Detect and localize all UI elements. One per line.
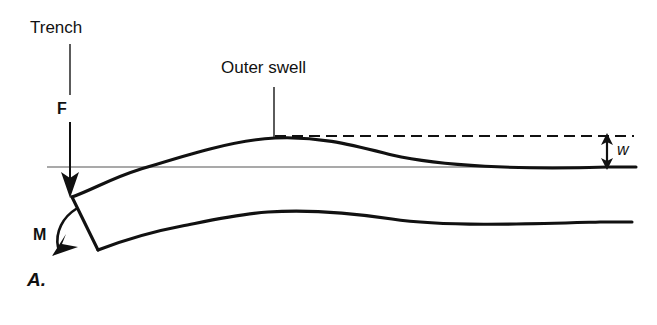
figure-panel-a: Trench Outer swell F M w A. xyxy=(0,0,657,325)
moment-arrowhead xyxy=(52,234,78,256)
force-symbol-label: F xyxy=(57,100,67,118)
deflection-symbol-label: w xyxy=(617,141,629,159)
moment-symbol-label: M xyxy=(33,226,46,244)
panel-label: A. xyxy=(27,269,46,291)
trench-label: Trench xyxy=(30,18,82,38)
plate-lower-surface xyxy=(98,211,632,250)
outer-swell-label: Outer swell xyxy=(221,58,306,78)
plate-left-edge xyxy=(72,197,98,250)
lithosphere-flexure-diagram xyxy=(0,0,657,325)
curved-moment-arrow-icon xyxy=(57,209,76,247)
